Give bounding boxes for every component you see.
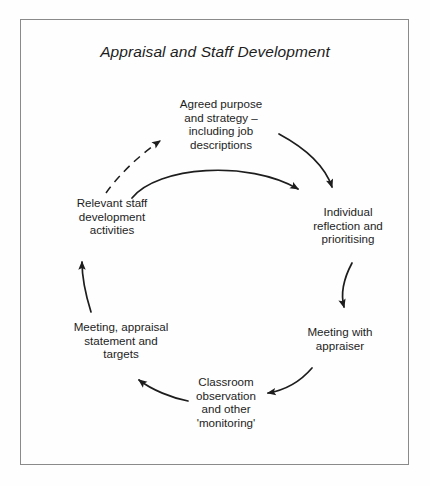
node-line: Classroom: [172, 375, 280, 389]
node-line: Individual: [296, 205, 400, 219]
node-line: development: [57, 210, 167, 224]
node-meeting-with-appraiser: Meeting with appraiser: [287, 325, 393, 352]
node-individual-reflection: Individual reflection and prioritising: [296, 205, 400, 246]
arrow-agreed-to-individual: [279, 134, 332, 187]
figure-container: Appraisal and Staff Development Agreed p…: [0, 0, 430, 486]
arrow-relevant-to-agreed-dashed: [106, 141, 160, 193]
node-line: descriptions: [160, 138, 282, 152]
node-agreed-purpose: Agreed purpose and strategy – including …: [160, 97, 282, 151]
node-line: Agreed purpose: [160, 97, 282, 111]
arrow-individual-to-appraiser: [342, 263, 352, 307]
node-classroom-observation: Classroom observation and other 'monitor…: [172, 375, 280, 429]
node-line: targets: [55, 347, 187, 361]
node-line: appraiser: [287, 339, 393, 353]
node-line: activities: [57, 223, 167, 237]
node-meeting-appraisal-statement: Meeting, appraisal statement and targets: [55, 320, 187, 361]
node-relevant-staff-development: Relevant staff development activities: [57, 196, 167, 237]
node-line: and other: [172, 402, 280, 416]
node-line: 'monitoring': [172, 416, 280, 430]
node-line: including job: [160, 124, 282, 138]
node-line: Meeting with: [287, 325, 393, 339]
arrow-statement-to-relevant: [82, 262, 91, 312]
arrow-relevant-to-individual-arc: [132, 170, 298, 198]
node-line: Relevant staff: [57, 196, 167, 210]
node-line: prioritising: [296, 232, 400, 246]
node-line: and strategy –: [160, 111, 282, 125]
node-line: reflection and: [296, 219, 400, 233]
node-line: Meeting, appraisal: [55, 320, 187, 334]
node-line: observation: [172, 389, 280, 403]
page-title: Appraisal and Staff Development: [0, 43, 430, 61]
node-line: statement and: [55, 334, 187, 348]
